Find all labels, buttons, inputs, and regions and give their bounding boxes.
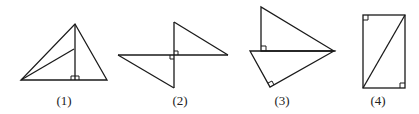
figure-4 — [363, 15, 405, 88]
figure-1-outer-triangle — [21, 24, 107, 80]
figure-4-label: (4) — [370, 93, 385, 109]
figure-3 — [250, 7, 334, 87]
figure-2-upper-hypotenuse — [174, 22, 228, 55]
figure-2-label: (2) — [172, 93, 187, 109]
figure-1-label: (1) — [56, 93, 71, 109]
figure-3-upper-triangle — [261, 7, 334, 51]
figure-3-lower-triangle — [250, 51, 334, 87]
figure-3-label: (3) — [274, 93, 289, 109]
figure-2 — [118, 22, 228, 88]
figure-4-diagonal — [363, 15, 405, 88]
figure-1-inner-segment — [21, 49, 74, 80]
figure-4-right-angle-mark-bottom — [400, 83, 405, 88]
figure-4-right-angle-mark-top — [363, 15, 368, 20]
figure-1 — [21, 24, 107, 80]
figure-3-right-angle-mark-upper — [261, 46, 266, 51]
figure-2-lower-hypotenuse — [118, 55, 174, 88]
